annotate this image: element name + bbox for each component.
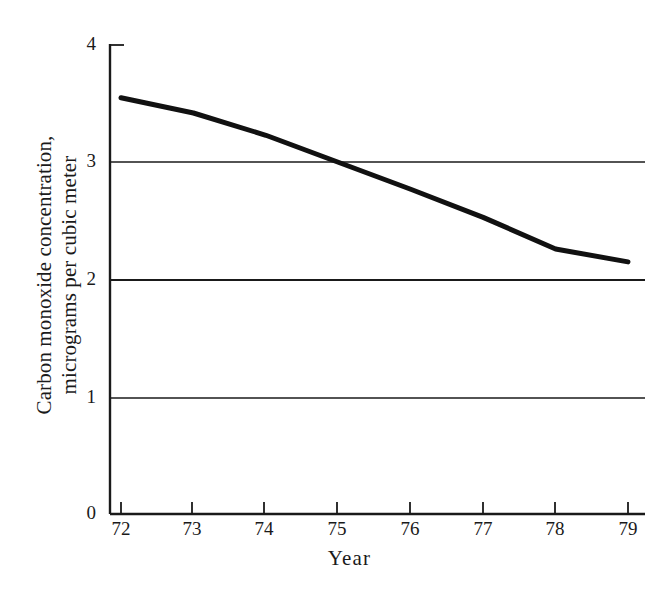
y-axis-title: Carbon monoxide concentration, microgram… — [14, 40, 100, 510]
x-tick-label-72: 72 — [101, 518, 141, 540]
x-tick-label-79: 79 — [608, 518, 648, 540]
y-axis-title-line-2: micrograms per cubic meter — [57, 136, 82, 415]
x-tick-label-77: 77 — [463, 518, 503, 540]
x-tick-label-74: 74 — [244, 518, 284, 540]
data-line-series — [121, 98, 628, 262]
x-tick-label-75: 75 — [317, 518, 357, 540]
x-axis-title-text: Year — [328, 546, 372, 571]
x-axis-title: Year — [0, 546, 669, 571]
line-chart-plot — [0, 0, 669, 593]
chart-figure: 4 3 2 1 0 72 73 74 75 76 77 78 79 Carbon… — [0, 0, 669, 593]
x-tick-label-76: 76 — [390, 518, 430, 540]
x-tick-label-78: 78 — [535, 518, 575, 540]
y-axis-title-line-1: Carbon monoxide concentration, — [32, 136, 57, 415]
x-tick-label-73: 73 — [172, 518, 212, 540]
